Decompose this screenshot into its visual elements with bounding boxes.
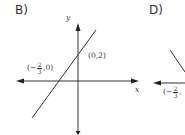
x-axis-left-arrow-icon (16, 79, 24, 84)
y-axis (76, 23, 81, 135)
option-d-graph (153, 50, 185, 86)
option-d-x-axis-left-arrow-icon (153, 81, 161, 86)
option-d-x-intercept-label: (−23, (163, 86, 181, 99)
option-d-label[interactable]: D) (149, 3, 163, 17)
option-d-plotted-line (170, 50, 185, 72)
y-axis-up-arrow-icon (76, 23, 81, 31)
y-axis-label: y (66, 13, 70, 22)
x-axis-label: x (135, 85, 139, 94)
x-axis-right-arrow-icon (131, 79, 139, 84)
x-intercept-label: (−23,0) (27, 62, 53, 75)
fraction: 23 (173, 86, 178, 99)
y-axis-down-arrow-icon (76, 131, 81, 135)
y-intercept-label: (0,2) (88, 51, 106, 60)
fraction: 23 (37, 62, 42, 75)
